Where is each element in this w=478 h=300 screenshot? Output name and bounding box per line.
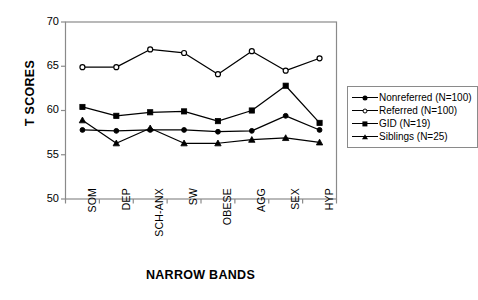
legend-label: Siblings (N=25) (378, 132, 448, 142)
series-referred-n-100 (80, 47, 322, 77)
data-point-marker (283, 113, 288, 118)
data-point-marker (317, 120, 322, 125)
data-point-marker (216, 129, 221, 134)
y-tick-label: 65 (33, 60, 59, 71)
data-point-marker (182, 50, 187, 55)
x-tick-label: SOM (87, 188, 98, 258)
y-tick-label: 70 (33, 16, 59, 27)
data-point-marker (317, 128, 322, 133)
data-point-marker (249, 108, 254, 113)
data-point-marker (113, 140, 119, 146)
data-point-marker (317, 56, 322, 61)
data-point-marker (148, 47, 153, 52)
data-point-marker (114, 128, 119, 133)
x-tick-label: SCH-ANX (154, 188, 165, 258)
data-point-marker (114, 113, 119, 118)
series-gid-n-19 (80, 83, 322, 125)
data-point-marker (79, 117, 85, 123)
data-point-marker (114, 65, 119, 70)
data-point-marker (283, 83, 288, 88)
data-point-marker (182, 128, 187, 133)
legend-item[interactable]: Siblings (N=25) (352, 130, 472, 143)
legend-marker-referred (352, 105, 378, 117)
data-point-marker (80, 65, 85, 70)
x-tick-label: DEP (121, 188, 132, 258)
y-axis-title: T SCORES (23, 38, 37, 148)
x-tick-label: HYP (324, 188, 335, 258)
data-point-marker (148, 110, 153, 115)
data-point-marker (249, 49, 254, 54)
chart-legend: Nonreferred (N=100) Referred (N=100) GID… (347, 86, 478, 148)
y-tick-label: 55 (33, 149, 59, 160)
legend-item[interactable]: Referred (N=100) (352, 104, 472, 117)
legend-item[interactable]: GID (N=19) (352, 117, 472, 130)
legend-label: Nonreferred (N=100) (378, 93, 472, 103)
data-point-marker (283, 68, 288, 73)
legend-label: Referred (N=100) (378, 106, 457, 116)
legend-marker-gid (352, 118, 378, 130)
data-point-marker (249, 128, 254, 133)
data-point-marker (147, 125, 153, 131)
legend-label: GID (N=19) (378, 119, 430, 129)
x-tick-label: SEX (290, 188, 301, 258)
y-tick-label: 60 (33, 104, 59, 115)
x-tick-label: SW (188, 188, 199, 258)
legend-marker-nonreferred (352, 92, 378, 104)
plot-frame (66, 22, 337, 199)
data-point-marker (80, 128, 85, 133)
data-point-marker (181, 109, 186, 114)
x-tick-label: AGG (256, 188, 267, 258)
legend-marker-siblings (352, 131, 378, 143)
x-axis-title: NARROW BANDS (65, 268, 336, 282)
legend-item[interactable]: Nonreferred (N=100) (352, 91, 472, 104)
y-tick-label: 50 (33, 193, 59, 204)
data-point-marker (215, 72, 220, 77)
x-tick-label: OBESE (222, 188, 233, 258)
data-point-marker (80, 104, 85, 109)
data-point-marker (215, 119, 220, 124)
